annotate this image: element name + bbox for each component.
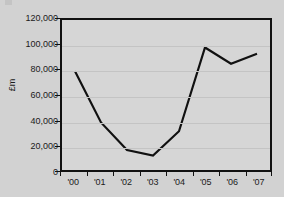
y-tick-label: 80,000 <box>30 65 58 74</box>
x-tick-label: '03 <box>147 178 159 187</box>
x-tick-mark <box>60 172 61 176</box>
x-tick-mark <box>193 172 194 176</box>
x-axis-tick-marks <box>60 172 272 177</box>
x-tick-mark <box>219 172 220 176</box>
y-tick-label: 20,000 <box>30 142 58 151</box>
x-tick-label: '04 <box>173 178 185 187</box>
x-tick-label: '06 <box>226 178 238 187</box>
y-tick-label: 100,000 <box>25 39 58 48</box>
gridline <box>62 123 270 124</box>
x-tick-label: '00 <box>67 178 79 187</box>
x-tick-label: '02 <box>120 178 132 187</box>
plot-inner <box>62 20 270 170</box>
x-tick-mark <box>87 172 88 176</box>
chart-figure: £m 020,00040,00060,00080,000100,000120,0… <box>0 0 284 197</box>
x-tick-mark <box>246 172 247 176</box>
x-axis-tick-labels: '00'01'02'03'04'05'06'07 <box>60 178 272 192</box>
y-tick-label: 40,000 <box>30 116 58 125</box>
y-tick-label: 120,000 <box>25 14 58 23</box>
x-tick-label: '07 <box>253 178 265 187</box>
data-line <box>75 47 257 155</box>
y-axis-tick-labels: 020,00040,00060,00080,000100,000120,000 <box>10 13 58 177</box>
gridline <box>62 71 270 72</box>
gridline <box>62 148 270 149</box>
gridline <box>62 46 270 47</box>
gridline <box>62 97 270 98</box>
x-tick-mark <box>166 172 167 176</box>
x-tick-label: '05 <box>200 178 212 187</box>
image-artifact-mark <box>5 0 12 5</box>
plot-area <box>60 18 272 172</box>
x-tick-mark <box>271 172 272 176</box>
x-tick-label: '01 <box>94 178 106 187</box>
x-tick-mark <box>140 172 141 176</box>
x-tick-mark <box>113 172 114 176</box>
y-tick-label: 60,000 <box>30 91 58 100</box>
